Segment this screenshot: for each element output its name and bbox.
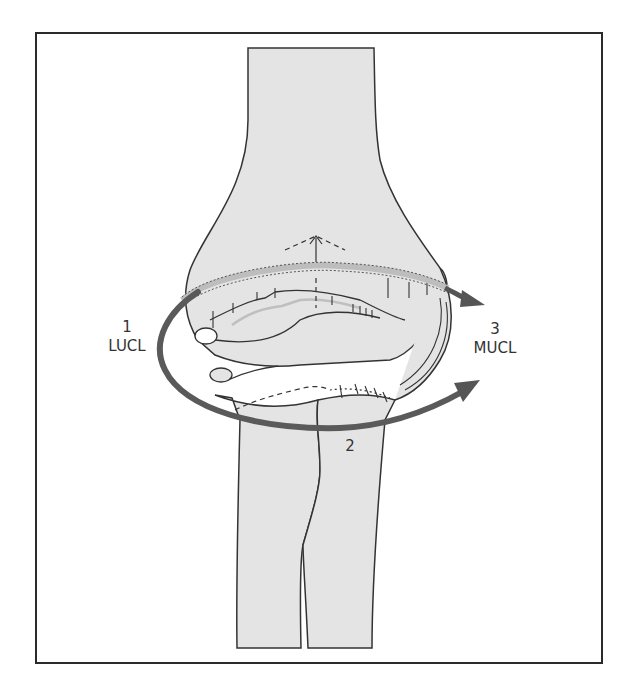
label-mucl-name: MUCL: [468, 339, 522, 358]
label-mucl: 3 MUCL: [468, 320, 522, 358]
lateral-epicondyle: [195, 328, 217, 344]
radial-head: [210, 368, 232, 382]
label-stage-2: 2: [340, 437, 360, 456]
label-mucl-number: 3: [468, 320, 522, 339]
humerus-bone: [186, 48, 447, 366]
elbow-diagram: [0, 0, 629, 688]
label-lucl-name: LUCL: [102, 337, 152, 356]
label-lucl: 1 LUCL: [102, 318, 152, 356]
radius-bone: [215, 395, 320, 648]
label-lucl-number: 1: [102, 318, 152, 337]
